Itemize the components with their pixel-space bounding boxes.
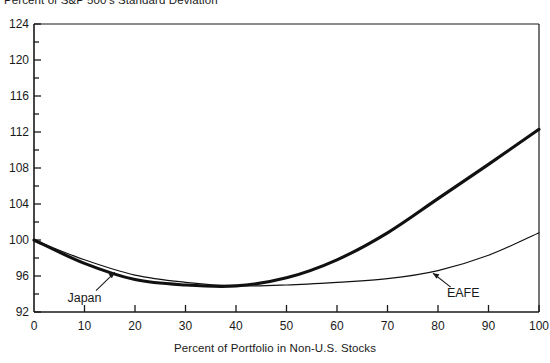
series-label-eafe: EAFE: [447, 286, 480, 300]
axes-frame: [34, 24, 539, 312]
y-tick-label: 116: [0, 89, 29, 103]
x-tick-label: 40: [229, 319, 242, 333]
y-tick-label: 92: [0, 305, 29, 319]
x-tick-label: 60: [330, 319, 343, 333]
x-tick-label: 30: [179, 319, 192, 333]
data-series-group: [34, 129, 539, 286]
series-line-japan: [34, 129, 539, 286]
y-axis-ticks: [34, 24, 41, 312]
x-tick-label: 100: [529, 319, 549, 333]
x-tick-label: 90: [482, 319, 495, 333]
x-tick-label: 50: [280, 319, 293, 333]
x-tick-label: 20: [128, 319, 141, 333]
x-tick-label: 80: [431, 319, 444, 333]
x-axis-ticks: [85, 305, 540, 312]
x-axis-title: Percent of Portfolio in Non-U.S. Stocks: [0, 342, 550, 354]
y-tick-label: 120: [0, 53, 29, 67]
x-tick-label: 10: [78, 319, 91, 333]
series-label-japan: Japan: [67, 291, 101, 305]
y-tick-label: 124: [0, 17, 29, 31]
x-tick-label: 70: [381, 319, 394, 333]
chart-figure: Percent of S&P 500's Standard Deviation …: [0, 0, 550, 363]
y-tick-label: 104: [0, 197, 29, 211]
y-tick-label: 96: [0, 269, 29, 283]
y-tick-label: 100: [0, 233, 29, 247]
y-tick-label: 108: [0, 161, 29, 175]
plot-canvas: [0, 0, 550, 363]
x-tick-label: 0: [31, 319, 38, 333]
y-tick-label: 112: [0, 125, 29, 139]
